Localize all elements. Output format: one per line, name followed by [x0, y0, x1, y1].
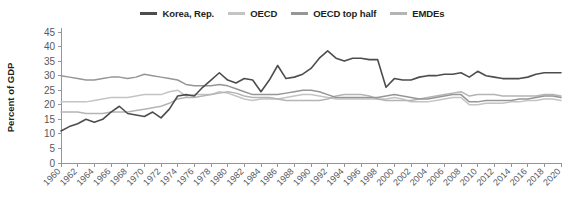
series-line: [61, 90, 561, 105]
x-axis-tick-label: 1964: [75, 166, 96, 187]
y-axis-tick-label: 10: [44, 128, 56, 139]
x-axis-tick-label: 1960: [41, 166, 62, 187]
y-axis-tick-label: 45: [44, 27, 56, 38]
x-axis-tick-label: 1994: [325, 166, 346, 187]
x-axis-tick-label: 1990: [291, 166, 312, 187]
x-axis-tick-label: 1978: [191, 166, 212, 187]
x-axis-tick-label: 1982: [225, 166, 246, 187]
x-axis-tick-label: 1984: [241, 166, 262, 187]
x-axis-tick-label: 1976: [175, 166, 196, 187]
series-line: [61, 74, 561, 102]
y-axis-tick-label: 5: [49, 143, 55, 154]
x-axis-tick-label: 2006: [425, 166, 446, 187]
x-axis-tick-label: 2010: [458, 166, 479, 187]
x-axis-tick-label: 1996: [341, 166, 362, 187]
x-axis-tick-label: 1970: [125, 166, 146, 187]
x-axis-tick-label: 2014: [491, 166, 512, 187]
y-axis-tick-label: 15: [44, 114, 56, 125]
x-axis-tick-label: 1962: [58, 166, 79, 187]
x-axis-tick-label: 2000: [375, 166, 396, 187]
x-axis-tick-label: 1980: [208, 166, 229, 187]
x-axis-tick-label: 1988: [275, 166, 296, 187]
y-axis-tick-label: 35: [44, 56, 56, 67]
y-axis-tick-label: 30: [44, 70, 56, 81]
x-axis-tick-label: 2018: [525, 166, 546, 187]
y-axis-label: Percent of GDP: [5, 62, 16, 132]
x-axis-tick-label: 1986: [258, 166, 279, 187]
chart-plot-area: Percent of GDP05101520253035404519601962…: [0, 0, 585, 210]
x-axis-tick-label: 1998: [358, 166, 379, 187]
x-axis-tick-label: 2008: [441, 166, 462, 187]
y-axis-tick-label: 40: [44, 41, 56, 52]
x-axis-tick-label: 2002: [391, 166, 412, 187]
x-axis-tick-label: 1972: [141, 166, 162, 187]
y-axis-tick-label: 25: [44, 85, 56, 96]
x-axis-tick-label: 2012: [475, 166, 496, 187]
x-axis-tick-label: 2004: [408, 166, 429, 187]
x-axis-tick-label: 1992: [308, 166, 329, 187]
x-axis-tick-label: 1974: [158, 166, 179, 187]
x-axis-tick-label: 1966: [91, 166, 112, 187]
x-axis-tick-label: 2016: [508, 166, 529, 187]
y-axis-tick-label: 20: [44, 99, 56, 110]
x-axis-tick-label: 2020: [541, 166, 562, 187]
chart-container: Korea, Rep.OECDOECD top halfEMDEs Percen…: [0, 0, 585, 210]
x-axis-tick-label: 1968: [108, 166, 129, 187]
